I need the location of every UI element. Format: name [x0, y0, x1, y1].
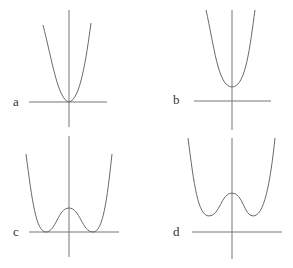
panel-b-curve [206, 10, 255, 87]
panel-a [29, 10, 107, 127]
panel-c [26, 136, 119, 257]
panel-c-label: c [13, 225, 19, 238]
panel-b [194, 10, 271, 130]
panel-a-label: a [13, 95, 19, 108]
potential-curves-figure [0, 0, 293, 268]
panel-d-label: d [173, 225, 180, 238]
panel-a-curve [43, 23, 91, 102]
panel-b-label: b [173, 93, 180, 106]
panel-d [188, 138, 282, 259]
